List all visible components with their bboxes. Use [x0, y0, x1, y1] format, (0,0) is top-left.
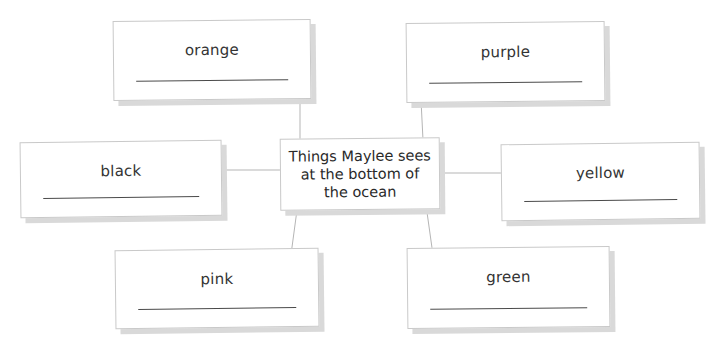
node-card-black: black — [20, 140, 223, 218]
node-label-black: black — [21, 161, 221, 181]
node-label-pink: pink — [116, 269, 318, 289]
node-card-yellow: yellow — [501, 142, 701, 221]
node-card-orange: orange — [113, 19, 312, 101]
answer-line-black[interactable] — [43, 196, 199, 199]
center-topic-box: Things Maylee sees at the bottom of the … — [280, 137, 441, 210]
node-card-purple: purple — [406, 21, 606, 103]
node-card-pink: pink — [115, 248, 320, 329]
answer-line-pink[interactable] — [138, 307, 296, 310]
node-label-orange: orange — [114, 40, 310, 60]
node-card-green: green — [407, 246, 611, 329]
answer-line-yellow[interactable] — [524, 199, 677, 202]
connector-purple — [421, 100, 423, 140]
answer-line-green[interactable] — [430, 307, 587, 310]
node-label-purple: purple — [407, 42, 604, 62]
node-label-yellow: yellow — [502, 163, 699, 183]
center-topic-text: Things Maylee sees at the bottom of the … — [281, 146, 439, 201]
answer-line-orange[interactable] — [136, 79, 288, 82]
answer-line-purple[interactable] — [429, 81, 582, 84]
node-label-green: green — [408, 267, 609, 287]
